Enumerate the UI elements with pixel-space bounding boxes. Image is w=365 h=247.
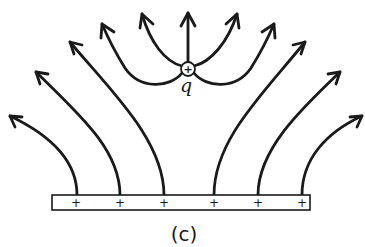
plate-plus-sign: + xyxy=(253,196,263,210)
charged-plate: + + + + + + xyxy=(52,195,310,210)
field-line-plate-6 xyxy=(302,116,362,195)
plate-plus-sign: + xyxy=(297,196,307,210)
field-line-plate-5 xyxy=(258,72,340,195)
plate-plus-sign: + xyxy=(115,196,125,210)
field-line-charge-upper-left xyxy=(142,14,182,66)
field-line-plate-1 xyxy=(10,116,77,195)
plate-plus-sign: + xyxy=(71,196,81,210)
plate-plus-sign: + xyxy=(209,196,219,210)
field-line-charge-upper-right xyxy=(194,14,237,66)
point-charge: + q xyxy=(180,62,195,96)
field-line-plate-2 xyxy=(36,72,120,195)
figure-caption: (c) xyxy=(171,222,198,246)
plate-plus-sign: + xyxy=(159,196,169,210)
charge-label: q xyxy=(180,74,192,96)
field-line-plate-4 xyxy=(214,42,305,195)
plate-bar xyxy=(52,195,310,210)
electric-field-diagram: + q + + + + + + (c) xyxy=(0,0,365,247)
